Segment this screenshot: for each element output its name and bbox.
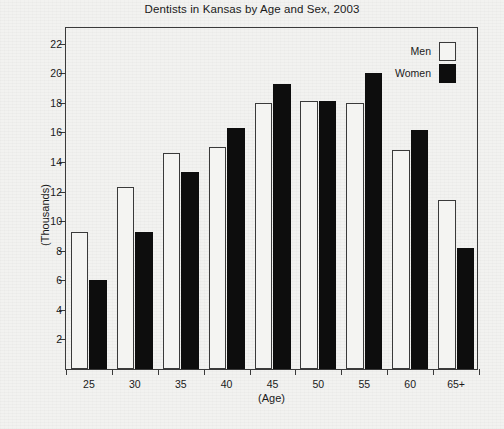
bar-men-55 — [346, 103, 364, 369]
y-tick-label: 10 — [50, 215, 62, 227]
bar-women-30 — [135, 232, 153, 369]
legend-item-women: Women — [395, 62, 456, 84]
y-tick-label: 14 — [50, 156, 62, 168]
y-tick-label: 6 — [56, 274, 62, 286]
x-tick-mark — [433, 369, 434, 375]
y-tick-label: 16 — [50, 126, 62, 138]
bar-men-60 — [392, 150, 410, 369]
y-tick-label: 22 — [50, 38, 62, 50]
x-tick-mark — [158, 369, 159, 375]
x-tick-label-35: 35 — [175, 378, 187, 390]
bar-women-60 — [411, 130, 429, 370]
x-tick-mark — [341, 369, 342, 375]
y-tick-label: 8 — [56, 245, 62, 257]
bar-women-40 — [227, 128, 245, 369]
legend-item-men: Men — [395, 40, 456, 62]
bar-women-55 — [365, 73, 383, 369]
chart-title: Dentists in Kansas by Age and Sex, 2003 — [0, 3, 504, 15]
y-tick-label: 18 — [50, 97, 62, 109]
x-tick-mark — [479, 369, 480, 375]
bar-women-50 — [319, 101, 337, 369]
legend-swatch-women — [439, 64, 456, 83]
bar-men-45 — [255, 103, 273, 369]
x-tick-mark — [295, 369, 296, 375]
y-tick-label: 4 — [56, 304, 62, 316]
x-tick-label-25: 25 — [83, 378, 95, 390]
bar-men-30 — [117, 187, 135, 369]
bar-men-25 — [71, 232, 89, 369]
y-axis-label: (Thousands) — [39, 184, 51, 246]
bar-women-35 — [181, 172, 199, 369]
legend-swatch-men — [439, 42, 456, 61]
x-tick-label-45: 45 — [267, 378, 279, 390]
x-axis-label: (Age) — [65, 392, 478, 404]
bar-women-65+ — [457, 248, 475, 369]
x-tick-label-60: 60 — [404, 378, 416, 390]
x-tick-mark — [204, 369, 205, 375]
x-tick-mark — [66, 369, 67, 375]
x-tick-mark — [387, 369, 388, 375]
y-tick-label: 12 — [50, 186, 62, 198]
bar-men-65+ — [438, 200, 456, 369]
bar-men-35 — [163, 153, 181, 369]
x-tick-label-50: 50 — [313, 378, 325, 390]
bar-women-45 — [273, 84, 291, 369]
y-tick-label: 2 — [56, 333, 62, 345]
x-tick-mark — [112, 369, 113, 375]
x-tick-mark — [250, 369, 251, 375]
y-tick-label: 20 — [50, 67, 62, 79]
chart-legend: Men Women — [395, 40, 456, 84]
x-tick-label-55: 55 — [358, 378, 370, 390]
bar-men-50 — [300, 101, 318, 369]
bar-chart: Dentists in Kansas by Age and Sex, 2003 … — [0, 0, 504, 429]
legend-label-men: Men — [411, 45, 431, 57]
x-tick-label-65+: 65+ — [447, 378, 465, 390]
x-tick-label-30: 30 — [129, 378, 141, 390]
x-tick-label-40: 40 — [221, 378, 233, 390]
bar-men-40 — [209, 147, 227, 369]
bar-women-25 — [89, 280, 107, 369]
legend-label-women: Women — [395, 67, 431, 79]
